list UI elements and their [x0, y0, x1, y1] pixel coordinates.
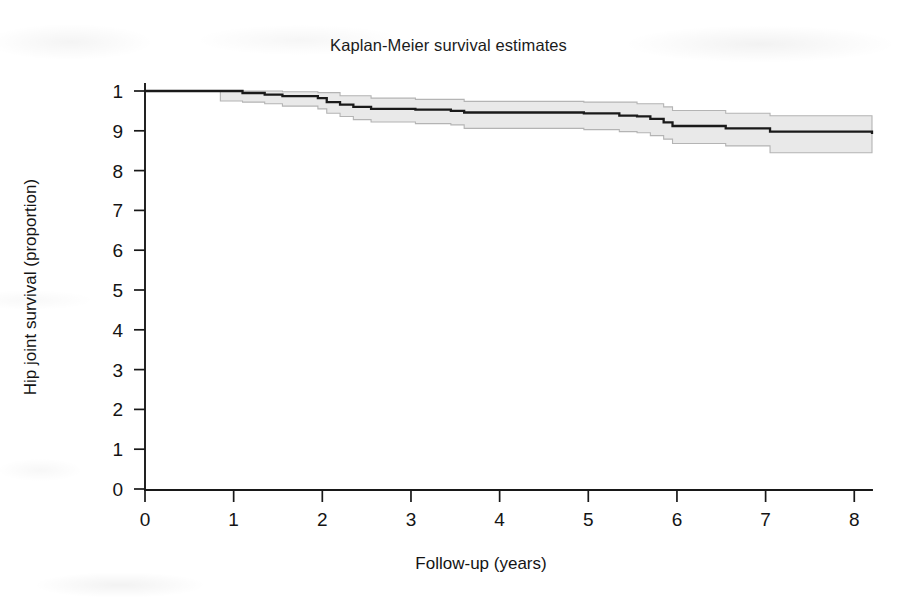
x-tick-label: 6: [672, 509, 683, 530]
y-axis-tick-labels: 01234567891: [112, 81, 123, 500]
x-tick-label: 1: [228, 509, 239, 530]
y-tick-label: 2: [112, 399, 123, 420]
x-tick-label: 8: [849, 509, 860, 530]
confidence-band: [145, 91, 872, 153]
x-tick-label: 5: [583, 509, 594, 530]
y-tick-label: 4: [112, 320, 123, 341]
x-tick-label: 7: [760, 509, 771, 530]
x-axis-title: Follow-up (years): [415, 554, 546, 573]
figure-canvas: Kaplan-Meier survival estimates 01234567…: [0, 0, 897, 600]
y-tick-label: 9: [112, 121, 123, 142]
y-tick-label: 6: [112, 240, 123, 261]
x-axis-tick-labels: 012345678: [140, 509, 860, 530]
y-tick-label: 7: [112, 200, 123, 221]
x-tick-label: 4: [494, 509, 505, 530]
y-tick-label: 5: [112, 280, 123, 301]
x-tick-label: 0: [140, 509, 151, 530]
x-axis-ticks: [145, 490, 854, 502]
y-tick-label: 3: [112, 360, 123, 381]
y-tick-label: 0: [112, 479, 123, 500]
y-tick-label: 8: [112, 161, 123, 182]
x-tick-label: 2: [317, 509, 328, 530]
y-tick-label: 1: [112, 439, 123, 460]
kaplan-meier-chart: 01234567891 012345678 Follow-up (years) …: [0, 0, 897, 600]
y-axis-title: Hip joint survival (proportion): [21, 179, 40, 395]
y-tick-label: 1: [112, 81, 123, 102]
x-tick-label: 3: [406, 509, 417, 530]
y-axis-ticks: [134, 91, 145, 489]
